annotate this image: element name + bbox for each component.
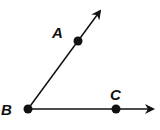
point-c [112, 105, 121, 114]
label-b: B [1, 101, 12, 118]
label-c: C [110, 86, 122, 103]
point-a [74, 37, 83, 46]
point-b [24, 105, 33, 114]
ray-ba [28, 11, 100, 109]
label-a: A [51, 24, 63, 41]
angle-diagram: A B C [0, 0, 160, 130]
